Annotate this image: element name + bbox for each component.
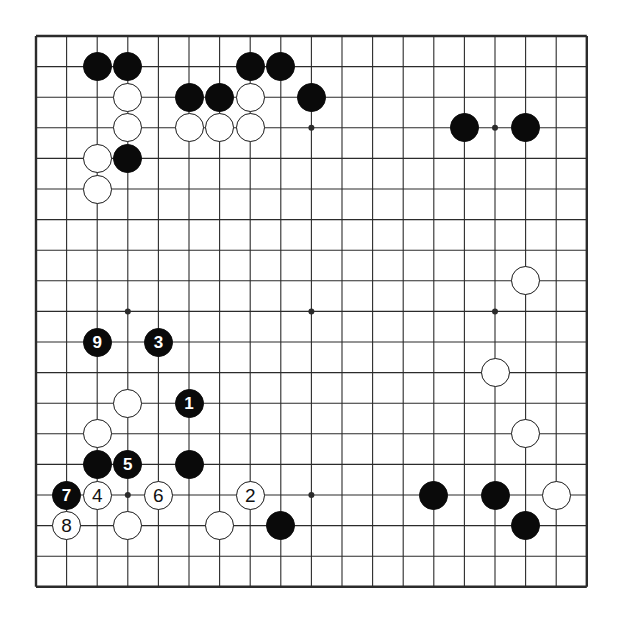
move-stone-1[interactable]: 1	[175, 389, 204, 418]
star-point	[308, 308, 314, 314]
move-number-label: 5	[123, 456, 132, 473]
move-number-label: 3	[154, 334, 163, 351]
star-point	[492, 308, 498, 314]
white-stone[interactable]	[113, 83, 142, 112]
black-stone[interactable]	[511, 511, 540, 540]
black-stone[interactable]	[450, 113, 479, 142]
move-stone-7[interactable]: 7	[52, 481, 81, 510]
black-stone[interactable]	[205, 83, 234, 112]
black-stone[interactable]	[481, 481, 510, 510]
move-stone-2[interactable]: 2	[236, 481, 265, 510]
star-point	[492, 125, 498, 131]
black-stone[interactable]	[175, 83, 204, 112]
white-stone[interactable]	[175, 113, 204, 142]
white-stone[interactable]	[542, 481, 571, 510]
move-number-label: 2	[245, 486, 256, 505]
move-number-label: 6	[153, 486, 164, 505]
move-number-label: 7	[62, 487, 71, 504]
move-stone-6[interactable]: 6	[144, 481, 173, 510]
black-stone[interactable]	[113, 144, 142, 173]
star-point	[125, 308, 131, 314]
black-stone[interactable]	[83, 450, 112, 479]
black-stone[interactable]	[419, 481, 448, 510]
move-number-label: 9	[92, 334, 101, 351]
move-stone-3[interactable]: 3	[144, 328, 173, 357]
star-point	[125, 492, 131, 498]
move-stone-4[interactable]: 4	[83, 481, 112, 510]
white-stone[interactable]	[236, 113, 265, 142]
white-stone[interactable]	[83, 144, 112, 173]
white-stone[interactable]	[481, 358, 510, 387]
move-number-label: 8	[61, 516, 72, 535]
move-number-label: 1	[184, 395, 193, 412]
go-diagram-page: 931574628	[0, 0, 619, 643]
white-stone[interactable]	[113, 389, 142, 418]
black-stone[interactable]	[83, 52, 112, 81]
white-stone[interactable]	[236, 83, 265, 112]
white-stone[interactable]	[83, 419, 112, 448]
white-stone[interactable]	[83, 175, 112, 204]
white-stone[interactable]	[205, 511, 234, 540]
move-stone-8[interactable]: 8	[52, 511, 81, 540]
star-point	[308, 125, 314, 131]
move-stone-9[interactable]: 9	[83, 328, 112, 357]
black-stone[interactable]	[175, 450, 204, 479]
black-stone[interactable]	[236, 52, 265, 81]
go-board[interactable]: 931574628	[0, 0, 619, 643]
move-stone-5[interactable]: 5	[113, 450, 142, 479]
black-stone[interactable]	[297, 83, 326, 112]
move-number-label: 4	[92, 486, 103, 505]
star-point	[308, 492, 314, 498]
